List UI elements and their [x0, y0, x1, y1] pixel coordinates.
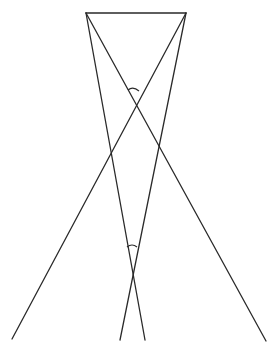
diagram-svg: [0, 0, 280, 351]
segment-a-to-p3: [86, 13, 145, 340]
upper-angle-arc: [128, 88, 139, 91]
geometry-diagram: [0, 0, 280, 351]
segment-b-to-p1: [12, 13, 186, 339]
